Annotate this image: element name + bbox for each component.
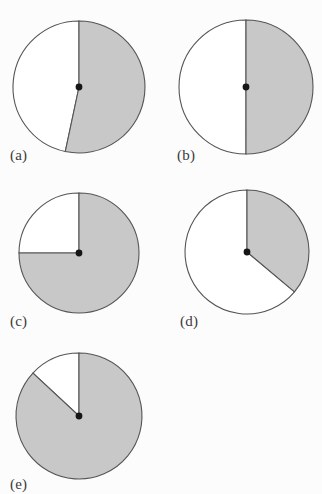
pie-slice-shaded-b — [246, 20, 313, 154]
pie-chart-figure: (a)(b)(c)(d)(e) — [0, 0, 322, 494]
panel-label-e: (e) — [10, 476, 27, 493]
panel-label-a: (a) — [10, 147, 27, 164]
pie-center-dot-e — [76, 413, 83, 420]
pie-chart-canvas — [0, 0, 322, 494]
panel-label-d: (d) — [180, 313, 198, 330]
pie-chart-d — [185, 190, 309, 314]
pie-center-dot-a — [76, 84, 83, 91]
pie-slice-unshaded-c — [19, 193, 79, 253]
panel-label-b: (b) — [177, 147, 195, 164]
panel-label-c: (c) — [10, 313, 27, 330]
pie-center-dot-b — [243, 84, 250, 91]
pie-center-dot-d — [244, 249, 251, 256]
pie-center-dot-c — [76, 250, 83, 257]
pie-chart-b — [179, 20, 313, 154]
pie-chart-e — [16, 353, 142, 479]
pie-chart-c — [19, 193, 139, 313]
pie-slice-unshaded-b — [179, 20, 246, 154]
pie-chart-a — [13, 21, 145, 153]
